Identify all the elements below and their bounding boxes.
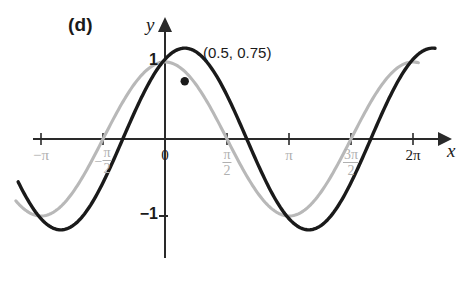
y-axis-arrowhead: [158, 17, 172, 32]
x-tick-label: 0: [161, 147, 169, 164]
fraction-numerator: π: [222, 148, 231, 163]
axes-group: [33, 17, 452, 258]
x-tick-label: π2: [222, 147, 231, 179]
y-tick-label: −1: [120, 205, 158, 223]
y-tick-label: 1: [120, 51, 158, 69]
fraction-numerator: 3π: [343, 148, 359, 163]
fraction-denominator: 2: [343, 163, 359, 178]
figure-container: (d) y x (0.5, 0.75) −π−π20π2π3π22π 1−1: [0, 0, 476, 295]
x-axis-arrowhead: [438, 132, 452, 146]
fraction-denominator: 2: [102, 161, 111, 176]
annotation-point-marker: [181, 77, 189, 85]
fraction-denominator: 2: [222, 163, 231, 178]
x-tick-label: −π: [33, 147, 49, 164]
fraction-numerator: π: [102, 146, 111, 161]
x-tick-label: 3π2: [343, 147, 359, 179]
x-tick-label: 2π: [405, 147, 420, 164]
x-tick-label: −π2: [94, 147, 111, 177]
tick-minus-sign: −: [94, 154, 102, 170]
x-tick-label: π: [285, 147, 293, 164]
